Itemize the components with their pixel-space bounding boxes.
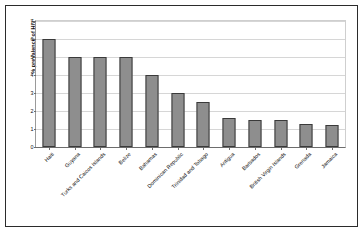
bar-slot	[36, 21, 62, 147]
bar[interactable]	[68, 57, 81, 147]
bar-slot	[88, 21, 114, 147]
bar-slot	[62, 21, 88, 147]
bar[interactable]	[274, 120, 287, 147]
figure-border: % prevalence of HIV 01234567 HaitiGuyana…	[5, 5, 358, 227]
bar-chart: % prevalence of HIV 01234567 HaitiGuyana…	[6, 6, 357, 226]
bar[interactable]	[197, 102, 210, 147]
bar[interactable]	[326, 125, 339, 147]
bar[interactable]	[94, 57, 107, 147]
bar-slot	[139, 21, 165, 147]
bar-slot	[268, 21, 294, 147]
x-tick-label: Turks and Caicos Islands	[60, 151, 107, 198]
x-tick-label: Guyana	[63, 151, 81, 169]
x-tick-label: Bahamas	[138, 151, 158, 171]
bar[interactable]	[248, 120, 261, 147]
bar-slot	[113, 21, 139, 147]
x-tick-label: Barbados	[241, 151, 262, 172]
bar[interactable]	[120, 57, 133, 147]
bar[interactable]	[171, 93, 184, 147]
x-tick-label: Haiti	[43, 151, 55, 163]
plot-area: 01234567	[35, 20, 346, 148]
x-tick-label: Jamaica	[320, 151, 338, 169]
figure-frame: % prevalence of HIV 01234567 HaitiGuyana…	[0, 0, 363, 232]
bar[interactable]	[42, 39, 55, 147]
bar-slot	[242, 21, 268, 147]
x-axis-labels: HaitiGuyanaTurks and Caicos IslandsBeliz…	[35, 149, 346, 227]
bar-slot	[319, 21, 345, 147]
y-tick-mark	[34, 147, 36, 148]
x-tick-label: Grenada	[294, 151, 313, 170]
x-tick-label: Belize	[117, 151, 132, 166]
bar-slot	[191, 21, 217, 147]
bar[interactable]	[145, 75, 158, 147]
bar-slot	[294, 21, 320, 147]
bar[interactable]	[300, 124, 313, 147]
bar-slot	[165, 21, 191, 147]
bar[interactable]	[223, 118, 236, 147]
bar-slot	[216, 21, 242, 147]
bars-layer	[36, 21, 345, 147]
x-tick-label: Antigua	[218, 151, 235, 168]
